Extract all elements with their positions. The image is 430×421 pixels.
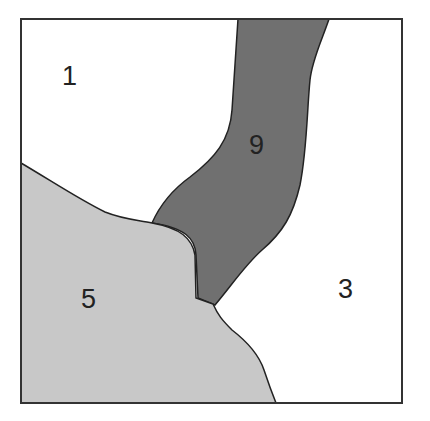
- region-label-1: 1: [62, 61, 77, 91]
- region-diagram: 1 9 5 3: [0, 0, 430, 421]
- region-label-9: 9: [249, 130, 264, 160]
- region-label-5: 5: [81, 284, 96, 314]
- region-label-3: 3: [338, 274, 353, 304]
